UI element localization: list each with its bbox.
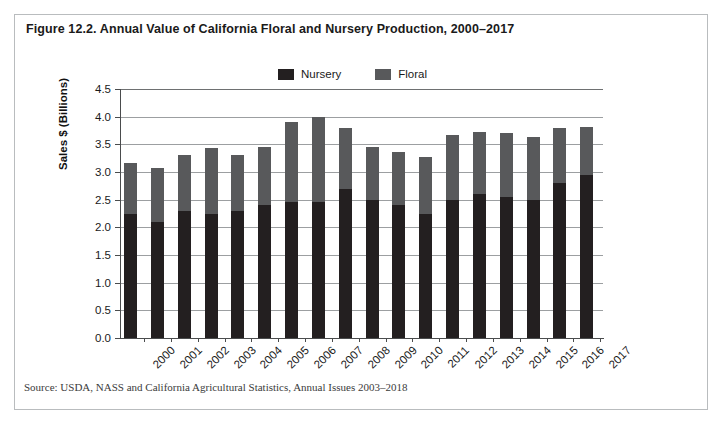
bar-segment-nursery	[339, 189, 352, 338]
x-tick-mark	[386, 338, 387, 342]
gridline	[120, 117, 603, 118]
bar-2009[interactable]	[366, 147, 379, 338]
x-tick-mark	[305, 338, 306, 342]
bar-2000[interactable]	[124, 163, 137, 338]
x-axis-line	[120, 338, 604, 339]
bar-2008[interactable]	[339, 128, 352, 338]
bar-2011[interactable]	[419, 157, 432, 338]
bar-2015[interactable]	[527, 137, 540, 338]
x-tick-mark	[412, 338, 413, 342]
bar-2004[interactable]	[231, 155, 244, 338]
bar-segment-nursery	[553, 183, 566, 338]
y-tick-label: 0.0	[95, 332, 111, 344]
bar-2006[interactable]	[285, 122, 298, 338]
x-tick-mark	[573, 338, 574, 342]
legend-item-nursery[interactable]: Nursery	[278, 68, 341, 80]
bar-segment-floral	[446, 135, 459, 200]
bar-2005[interactable]	[258, 147, 271, 338]
x-tick-mark	[493, 338, 494, 342]
x-tick-mark	[439, 338, 440, 342]
figure-title: Figure 12.2. Annual Value of California …	[26, 22, 514, 36]
bar-segment-floral	[580, 127, 593, 175]
x-tick-mark	[600, 338, 601, 342]
bar-2016[interactable]	[553, 128, 566, 338]
plot-top-border	[120, 89, 603, 90]
bar-segment-nursery	[151, 222, 164, 338]
y-tick-label: 3.5	[95, 138, 111, 150]
bar-2017[interactable]	[580, 127, 593, 338]
y-tick-label: 3.0	[95, 166, 111, 178]
x-tick-mark	[251, 338, 252, 342]
bar-segment-nursery	[580, 175, 593, 338]
bar-segment-nursery	[392, 205, 405, 338]
plot-area: 0.00.51.01.52.02.53.03.54.04.5	[120, 89, 603, 338]
bar-segment-floral	[124, 163, 137, 214]
bar-segment-nursery	[285, 202, 298, 338]
x-tick-mark	[278, 338, 279, 342]
bar-segment-floral	[151, 168, 164, 222]
bar-segment-nursery	[231, 211, 244, 338]
bar-segment-floral	[473, 132, 486, 194]
bar-2010[interactable]	[392, 152, 405, 338]
bar-segment-nursery	[178, 211, 191, 338]
bar-segment-floral	[500, 133, 513, 197]
bar-2012[interactable]	[446, 135, 459, 338]
x-tick-mark	[520, 338, 521, 342]
x-tick-mark	[466, 338, 467, 342]
bar-segment-floral	[419, 157, 432, 214]
y-axis-line	[120, 89, 121, 339]
chart-legend: NurseryFloral	[278, 66, 427, 82]
bar-segment-nursery	[205, 214, 218, 339]
bar-segment-nursery	[473, 194, 486, 338]
bar-segment-floral	[392, 152, 405, 206]
x-tick-mark	[547, 338, 548, 342]
y-tick-label: 2.5	[95, 194, 111, 206]
bar-segment-floral	[231, 155, 244, 211]
y-tick-label: 1.0	[95, 277, 111, 289]
legend-item-floral[interactable]: Floral	[375, 68, 427, 80]
bar-segment-floral	[527, 137, 540, 200]
y-tick-label: 4.5	[95, 83, 111, 95]
bar-segment-nursery	[527, 200, 540, 338]
bar-segment-floral	[285, 122, 298, 202]
x-tick-mark	[332, 338, 333, 342]
x-tick-mark	[359, 338, 360, 342]
bar-2014[interactable]	[500, 133, 513, 338]
x-tick-mark	[171, 338, 172, 342]
bar-2003[interactable]	[205, 148, 218, 338]
x-tick-mark	[225, 338, 226, 342]
bar-segment-floral	[339, 128, 352, 189]
bar-2002[interactable]	[178, 155, 191, 338]
legend-label-nursery: Nursery	[301, 68, 341, 80]
bar-2001[interactable]	[151, 168, 164, 338]
bar-segment-nursery	[500, 197, 513, 338]
bar-2007[interactable]	[312, 117, 325, 338]
legend-swatch-floral	[375, 69, 391, 80]
y-tick-label: 4.0	[95, 111, 111, 123]
bar-segment-floral	[205, 148, 218, 213]
figure-container: Figure 12.2. Annual Value of California …	[0, 0, 723, 424]
bar-segment-nursery	[366, 200, 379, 338]
source-note: Source: USDA, NASS and California Agricu…	[24, 381, 407, 393]
bar-segment-nursery	[419, 214, 432, 339]
y-tick-label: 2.0	[95, 221, 111, 233]
bar-segment-floral	[366, 147, 379, 200]
legend-swatch-nursery	[278, 69, 294, 80]
legend-label-floral: Floral	[398, 68, 427, 80]
bar-segment-floral	[553, 128, 566, 183]
bar-segment-nursery	[258, 205, 271, 338]
x-tick-mark	[144, 338, 145, 342]
bar-segment-nursery	[312, 202, 325, 338]
y-axis-title: Sales $ (Billions)	[57, 78, 69, 170]
x-tick-mark	[198, 338, 199, 342]
bar-segment-nursery	[124, 214, 137, 339]
bar-segment-nursery	[446, 200, 459, 338]
bar-segment-floral	[312, 117, 325, 203]
y-tick-label: 0.5	[95, 304, 111, 316]
y-tick-label: 1.5	[95, 249, 111, 261]
bar-segment-floral	[258, 147, 271, 206]
bar-segment-floral	[178, 155, 191, 210]
bar-2013[interactable]	[473, 132, 486, 338]
